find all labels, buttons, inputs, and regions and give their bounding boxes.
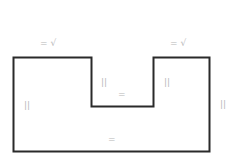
label-notch-left-wall: || <box>101 77 107 87</box>
label-bottom-edge: = <box>108 134 116 144</box>
notched-shape-diagram: = √ = √ || = || || || = <box>0 0 237 163</box>
label-top-left-edge: = √ <box>40 38 56 48</box>
label-left-edge: || <box>24 100 30 110</box>
label-notch-bottom: = <box>118 89 126 99</box>
label-notch-right-wall: || <box>164 77 170 87</box>
label-top-right-edge: = √ <box>170 38 186 48</box>
label-right-edge: || <box>220 99 226 109</box>
